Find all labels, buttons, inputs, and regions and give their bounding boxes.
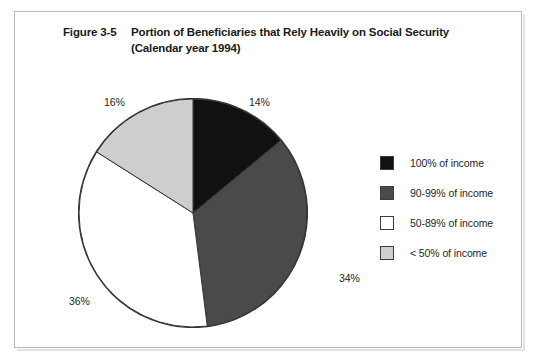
legend-label: < 50% of income <box>410 246 487 260</box>
legend-item-less-than-50-percent-of-income: < 50% of income <box>380 245 510 275</box>
legend-label: 90-99% of income <box>410 186 493 200</box>
legend-label: 50-89% of income <box>410 216 493 230</box>
figure-number: Figure 3-5 <box>63 24 116 40</box>
figure-title-line-1: Portion of Beneficiaries that Rely Heavi… <box>131 24 491 40</box>
legend-label: 100% of income <box>410 156 484 170</box>
figure-page: Figure 3-5 Portion of Beneficiaries that… <box>0 0 539 361</box>
figure-title-line-2: (Calendar year 1994) <box>131 40 491 56</box>
pie-chart <box>78 98 308 328</box>
legend-swatch-icon <box>380 186 394 200</box>
chart-legend: 100% of income 90-99% of income 50-89% o… <box>380 155 510 275</box>
pie-slice-group <box>79 99 307 327</box>
pie-chart-svg <box>78 98 308 328</box>
pie-value-label-50-89-percent-of-income: 36% <box>69 295 90 307</box>
legend-swatch-icon <box>380 156 394 170</box>
legend-item-50-89-percent-of-income: 50-89% of income <box>380 215 510 245</box>
legend-item-100-percent-of-income: 100% of income <box>380 155 510 185</box>
pie-value-label-90-99-percent-of-income: 34% <box>339 272 360 284</box>
pie-value-label-less-than-50-percent-of-income: 16% <box>104 96 125 108</box>
figure-title: Portion of Beneficiaries that Rely Heavi… <box>131 24 491 56</box>
legend-swatch-icon <box>380 246 394 260</box>
pie-value-label-100-percent-of-income: 14% <box>249 96 270 108</box>
legend-item-90-99-percent-of-income: 90-99% of income <box>380 185 510 215</box>
legend-swatch-icon <box>380 216 394 230</box>
